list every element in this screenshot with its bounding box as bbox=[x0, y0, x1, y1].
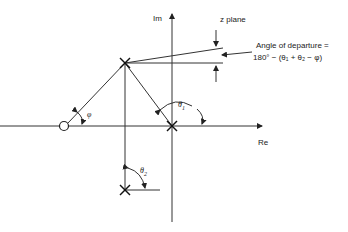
zero-marker bbox=[60, 122, 69, 131]
z-plane-diagram bbox=[0, 0, 348, 232]
theta1-label: θ1 bbox=[178, 101, 185, 111]
real-axis-label: Re bbox=[258, 139, 268, 147]
imaginary-axis-label: Im bbox=[153, 15, 162, 23]
z-plane-title: z plane bbox=[220, 16, 246, 24]
phi-label: φ bbox=[87, 111, 91, 119]
departure-annotation-line2: 180° − (θ₁ + θ₂ − φ) bbox=[253, 54, 322, 62]
departure-annotation-line1: Angle of departure = bbox=[256, 42, 329, 50]
theta2-label: θ2 bbox=[140, 167, 147, 177]
